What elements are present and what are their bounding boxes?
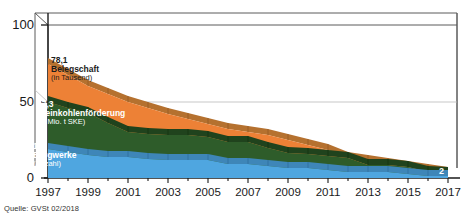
source-note: Quelle: GVSt 02/2018: [4, 204, 79, 213]
x-tick-label-2003: 2003: [155, 186, 181, 198]
x-tick-label-2015: 2015: [395, 186, 421, 198]
annotation-belegschaft-unit: (in Tausend): [51, 74, 99, 82]
coal-decline-area-chart: 0 50 100: [0, 0, 469, 221]
x-tick-label-2009: 2009: [275, 186, 301, 198]
y-tick-label-100: 100: [12, 17, 34, 32]
x-tick-label-2017: 2017: [435, 186, 461, 198]
y-tick-label-0: 0: [27, 170, 34, 185]
annotation-steinkohlenfoerderung: 47,3 Steinkohlenförderung (in Mio. t SKE…: [37, 100, 125, 126]
x-tick-label-2013: 2013: [355, 186, 381, 198]
y-tick-label-50: 50: [20, 94, 34, 109]
x-axis-ticks: [48, 178, 448, 183]
x-tick-label-1997: 1997: [35, 186, 61, 198]
end-label-belegschaft: 5,1: [433, 143, 446, 153]
annotation-bergwerke: 17 Bergwerke (Anzahl): [33, 142, 76, 168]
x-tick-label-2005: 2005: [195, 186, 221, 198]
end-label-bergwerke: 2: [439, 166, 444, 176]
annotation-foerderung-unit: (in Mio. t SKE): [37, 118, 125, 126]
x-tick-label-1999: 1999: [75, 186, 101, 198]
x-tick-label-2007: 2007: [235, 186, 261, 198]
annotation-bergwerke-unit: (Anzahl): [33, 160, 76, 168]
annotation-belegschaft: 78,1 Belegschaft (in Tausend): [51, 56, 99, 82]
x-tick-label-2011: 2011: [316, 186, 341, 198]
x-tick-label-2001: 2001: [115, 186, 141, 198]
end-label-foerderung: 3,7: [432, 155, 445, 165]
